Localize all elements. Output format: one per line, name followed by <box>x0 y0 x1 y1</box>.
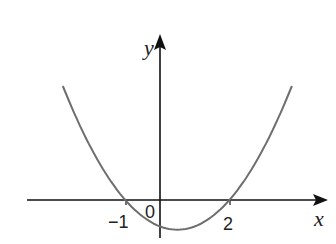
x-axis-label: x <box>313 206 324 231</box>
tick-label-2: 2 <box>223 214 233 234</box>
parabola-graph: y x 0 −1 2 <box>0 0 336 244</box>
tick-label-neg1: −1 <box>108 212 129 232</box>
origin-label: 0 <box>145 202 155 222</box>
y-axis-label: y <box>142 35 154 60</box>
parabola-curve <box>63 86 292 230</box>
